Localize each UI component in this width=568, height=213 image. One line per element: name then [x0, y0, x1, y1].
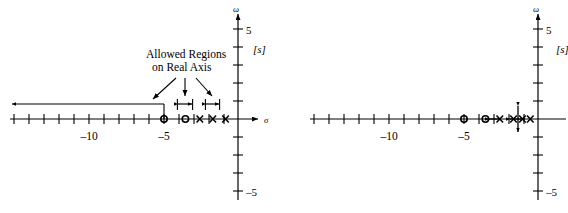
left-annotation-arrows: [153, 78, 212, 99]
figure-canvas: Allowed Regions on Real Axis ω σ 5 [s] –…: [0, 0, 568, 213]
left-tick-label-minus-5-vert: –5: [245, 186, 258, 198]
right-tick-label-minus-10: –10: [379, 130, 398, 142]
right-omega-label: ω: [533, 4, 539, 14]
left-note-line1: Allowed Regions: [146, 48, 227, 61]
left-tick-label-5: 5: [246, 24, 252, 36]
left-tick-label-minus-5: –5: [157, 130, 170, 142]
left-s-plane-label: [s]: [253, 43, 266, 55]
left-tick-label-minus-10: –10: [79, 130, 98, 142]
left-allowed-ray: [12, 104, 164, 119]
right-tick-label-minus-5: –5: [457, 130, 470, 142]
left-plot: Allowed Regions on Real Axis ω σ 5 [s] –…: [10, 4, 269, 200]
s-plane-figure: Allowed Regions on Real Axis ω σ 5 [s] –…: [0, 0, 568, 213]
right-tick-label-minus-5-vert: –5: [545, 186, 558, 198]
left-allowed-segment-1: [177, 99, 192, 110]
right-plot: ω 5 [s] –5 –10 –5: [310, 4, 568, 200]
left-allowed-segment-2: [205, 99, 219, 110]
left-sigma-label: σ: [264, 115, 269, 125]
right-tick-label-5: 5: [546, 24, 552, 36]
left-omega-label: ω: [233, 4, 239, 14]
left-note-line2: on Real Axis: [152, 61, 212, 73]
right-s-plane-label: [s]: [556, 43, 568, 55]
